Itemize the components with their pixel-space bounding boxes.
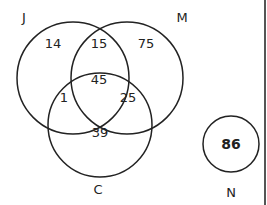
set-j-label: J bbox=[22, 10, 26, 25]
border-line bbox=[264, 0, 266, 205]
region-m-c: 25 bbox=[120, 90, 137, 105]
set-m-label: M bbox=[176, 10, 187, 25]
region-j-m: 15 bbox=[91, 36, 108, 51]
region-j-m-c: 45 bbox=[91, 72, 108, 87]
set-n-label: N bbox=[226, 185, 236, 200]
region-n-only: 86 bbox=[221, 136, 240, 152]
region-m-only: 75 bbox=[138, 36, 155, 51]
region-c-only: 39 bbox=[92, 125, 109, 140]
region-j-c: 1 bbox=[60, 90, 68, 105]
region-j-only: 14 bbox=[45, 36, 62, 51]
set-j-circle bbox=[17, 22, 129, 134]
set-c-label: C bbox=[93, 182, 102, 197]
set-m-circle bbox=[71, 22, 183, 134]
